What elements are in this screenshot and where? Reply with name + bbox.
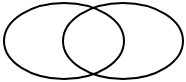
venn-diagram — [0, 0, 186, 82]
